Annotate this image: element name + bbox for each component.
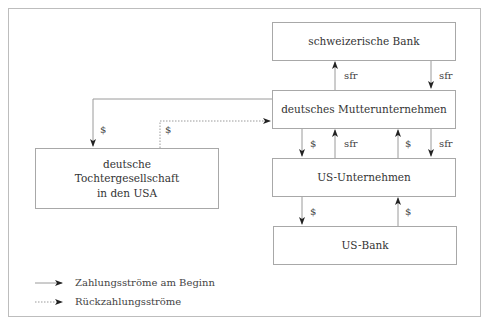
flow-label-usd-down-mid: $ [310,138,316,150]
arrow-usd-subsidiary-to-parent [160,121,270,148]
node-us-company: US-Unternehmen [272,158,456,197]
arrow-usd-parent-to-subsidiary [93,99,272,146]
flow-label-usd-to-subsidiary: $ [100,124,106,136]
flow-label-usd-from-subsidiary: $ [165,124,171,136]
node-parent-company-label: deutsches Mutterunternehmen [281,102,447,117]
node-us-bank: US-Bank [273,226,457,265]
flow-label-sfr-down-top: sfr [439,70,453,82]
node-subsidiary-line3: in den USA [97,186,157,201]
node-swiss-bank-label: schweizerische Bank [308,34,419,49]
flow-label-sfr-up-top: sfr [344,70,358,82]
node-us-bank-label: US-Bank [341,238,388,253]
flow-label-sfr-down-mid: sfr [439,138,453,150]
node-swiss-bank: schweizerische Bank [272,22,456,61]
flow-label-sfr-up-mid: sfr [344,138,358,150]
legend-dotted-label: Rückzahlungsströme [75,296,181,308]
legend-solid-label: Zahlungsströme am Beginn [75,277,215,289]
flow-label-usd-down-bottom: $ [310,206,316,218]
node-us-company-label: US-Unternehmen [317,170,411,185]
flow-label-usd-up-mid: $ [405,138,411,150]
node-subsidiary-line2: Tochtergesellschaft [75,171,179,186]
node-parent-company: deutsches Mutterunternehmen [272,90,456,129]
flow-label-usd-up-bottom: $ [405,206,411,218]
node-subsidiary-line1: deutsche [103,157,151,172]
node-subsidiary: deutsche Tochtergesellschaft in den USA [35,148,219,209]
